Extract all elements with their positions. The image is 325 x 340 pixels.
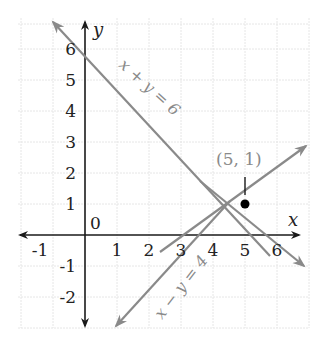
coordinate-graph: -1 1 2 3 4 5 6 6 5 4 3 2 1 -1 -2 0 y x x…: [0, 0, 325, 340]
x-tick-label: 2: [144, 240, 155, 260]
x-axis-label: x: [288, 209, 298, 230]
equation-label-x-plus-y: x + y = 6: [115, 55, 184, 120]
x-tick-label: 3: [176, 240, 187, 260]
y-axis-label: y: [92, 19, 104, 40]
x-tick-label: 5: [240, 240, 251, 260]
origin-label: 0: [90, 213, 101, 233]
y-tick-label: 2: [65, 163, 76, 183]
intersection-point: [241, 200, 250, 209]
y-tick-label: -1: [59, 256, 76, 276]
point-label: (5, 1): [216, 149, 262, 169]
y-tick-label: 1: [65, 194, 76, 214]
y-tick-label: 3: [65, 132, 76, 152]
y-tick-label: -2: [59, 287, 76, 307]
y-tick-label: 5: [65, 70, 76, 90]
grid: [18, 18, 309, 328]
y-tick-label: 6: [65, 39, 76, 59]
x-tick-label: 4: [208, 240, 219, 260]
x-tick-label: 6: [272, 240, 283, 260]
x-tick-label: 1: [112, 240, 123, 260]
x-tick-label: -1: [32, 240, 49, 260]
y-tick-label: 4: [65, 101, 76, 121]
